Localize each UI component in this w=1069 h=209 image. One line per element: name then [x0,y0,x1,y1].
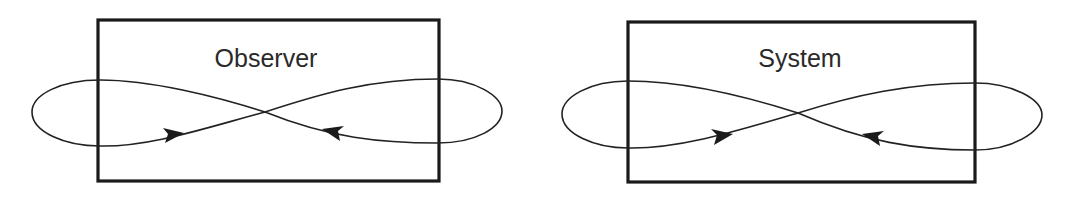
observer-infinity-loop [32,79,502,146]
observer-diagram: Observer [32,20,502,181]
observer-label: Observer [215,44,318,72]
system-infinity-loop [562,81,1042,150]
system-diagram: System [562,22,1042,182]
arrow-left-icon [322,126,344,141]
arrow-left-icon [862,131,884,146]
system-label: System [758,44,841,72]
figure-eight-diagrams: Observer System [0,0,1069,209]
